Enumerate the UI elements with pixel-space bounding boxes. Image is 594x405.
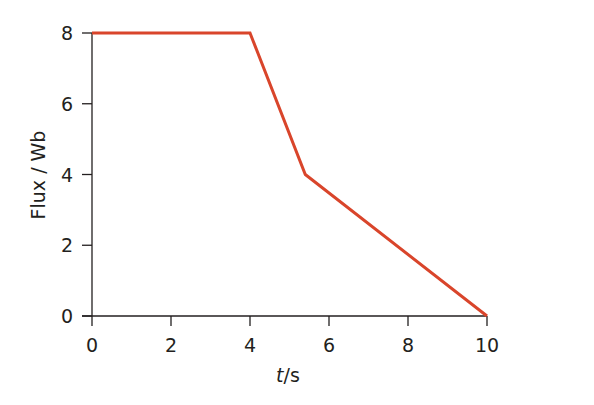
flux-time-chart: 02468 0246810 Flux / Wb t/s bbox=[0, 0, 594, 405]
y-axis-title: Flux / Wb bbox=[27, 131, 49, 220]
y-axis-ticks: 02468 bbox=[61, 22, 92, 327]
flux-line bbox=[92, 33, 487, 316]
x-tick-label: 0 bbox=[86, 334, 98, 356]
x-axis-ticks: 0246810 bbox=[86, 316, 499, 356]
y-tick-label: 8 bbox=[61, 22, 73, 44]
x-tick-label: 8 bbox=[402, 334, 414, 356]
x-tick-label: 10 bbox=[475, 334, 499, 356]
y-tick-label: 4 bbox=[61, 164, 73, 186]
x-axis-title: t/s bbox=[276, 364, 300, 386]
y-tick-label: 0 bbox=[61, 305, 73, 327]
axes bbox=[82, 33, 487, 316]
x-tick-label: 6 bbox=[323, 334, 335, 356]
y-tick-label: 2 bbox=[61, 234, 73, 256]
y-tick-label: 6 bbox=[61, 93, 73, 115]
x-tick-label: 2 bbox=[165, 334, 177, 356]
x-tick-label: 4 bbox=[244, 334, 256, 356]
